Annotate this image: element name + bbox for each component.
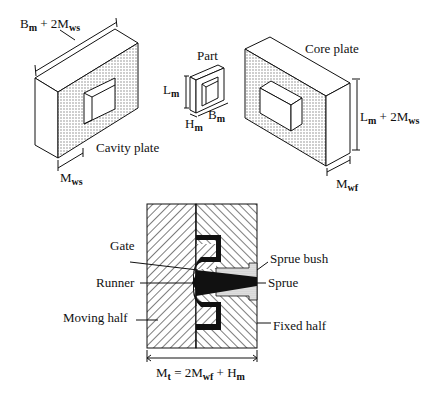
fixed-half-label: Fixed half <box>273 318 327 333</box>
part-length-label: Lm <box>163 82 180 99</box>
part-label: Part <box>197 48 218 63</box>
cavity-width-label: Bm + 2Mws <box>20 16 80 33</box>
cavity-plate-side-face <box>35 78 58 158</box>
sprue-bush-leader <box>257 262 268 270</box>
sprue-label: Sprue <box>268 275 299 290</box>
sprue-bush-label: Sprue bush <box>270 251 329 266</box>
part: Part Lm Hm Bm <box>163 48 228 133</box>
core-depth-label: Mwf <box>336 176 359 193</box>
cavity-plate: Bm + 2Mws Mws Cavity plate <box>20 16 159 187</box>
total-dimension-label: Mt = 2Mwf + Hm <box>156 365 246 382</box>
mold-cross-section: Gate Runner Moving half Sprue bush Sprue… <box>63 204 329 382</box>
core-length-label: Lm + 2Mws <box>360 109 419 126</box>
runner-label: Runner <box>96 275 135 290</box>
part-height-label: Hm <box>185 116 203 133</box>
part-breadth-label: Bm <box>208 107 226 124</box>
core-plate-label: Core plate <box>305 41 359 56</box>
gate-label: Gate <box>110 238 135 253</box>
moving-half-label: Moving half <box>63 310 128 325</box>
cavity-plate-label: Cavity plate <box>96 140 159 155</box>
moving-half <box>147 204 196 348</box>
cavity-depth-label: Mws <box>60 170 83 187</box>
core-plate: Core plate Lm + 2Mws Mwf <box>245 37 419 193</box>
mold-design-diagram: Bm + 2Mws Mws Cavity plate Part Lm <box>0 0 444 395</box>
